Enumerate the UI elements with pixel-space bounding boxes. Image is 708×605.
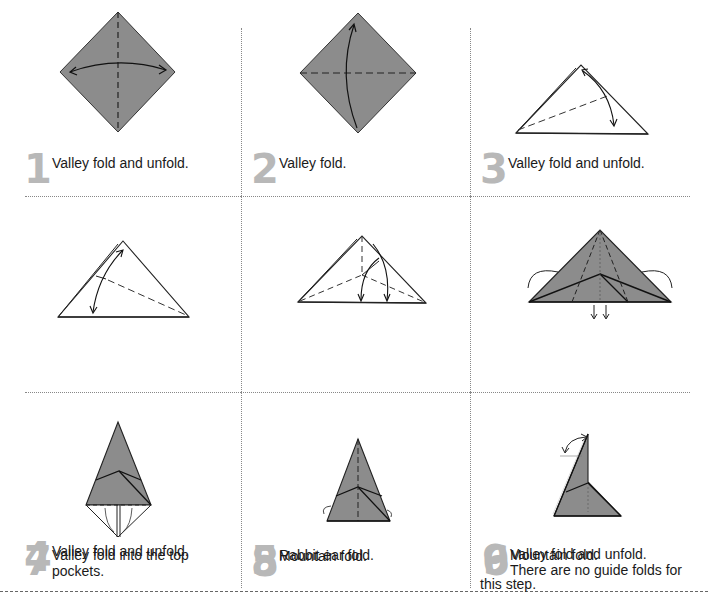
- step-5-diagram: [241, 196, 470, 392]
- step-4: 4 Valley fold and unfold.: [0, 196, 241, 392]
- step-6: 6 Mountain fold.: [470, 196, 708, 392]
- step-3-caption: 3 Valley fold and unfold.: [480, 152, 645, 186]
- step-2-caption: 2 Valley fold.: [251, 152, 346, 186]
- step-number: 2: [251, 152, 277, 186]
- step-3: 3 Valley fold and unfold.: [470, 0, 708, 196]
- step-instruction-line-3: this step.: [480, 576, 702, 592]
- step-instruction: Mountain fold.: [279, 545, 367, 564]
- step-7-caption: 7 Valley fold into the top pockets.: [24, 544, 192, 579]
- step-instruction: Valley fold and unfold.: [52, 152, 189, 171]
- step-7: 7 Valley fold into the top pockets.: [0, 392, 241, 591]
- step-9: 9 Valley fold and unfold. There are no g…: [470, 392, 708, 591]
- step-number: 3: [480, 152, 506, 186]
- step-number: 7: [24, 544, 50, 578]
- step-number: 9: [482, 543, 508, 577]
- step-6-diagram: [470, 196, 708, 392]
- step-instruction-line-1: Valley fold and unfold.: [510, 546, 682, 562]
- step-4-diagram: [0, 196, 241, 392]
- step-5: 5 Rabbit ear fold.: [241, 196, 470, 392]
- step-instruction: Valley fold.: [279, 152, 346, 171]
- step-instruction: Valley fold into the top pockets.: [52, 544, 192, 579]
- step-instruction: Valley fold and unfold.: [508, 152, 645, 171]
- step-8: 8 Mountain fold.: [241, 392, 470, 591]
- step-number: 8: [251, 545, 277, 579]
- step-1-caption: 1 Valley fold and unfold.: [24, 152, 189, 186]
- step-9-caption: 9 Valley fold and unfold. There are no g…: [482, 543, 702, 592]
- step-number: 1: [24, 152, 50, 186]
- step-1: 1 Valley fold and unfold.: [0, 0, 241, 196]
- step-2: 2 Valley fold.: [241, 0, 470, 196]
- step-8-caption: 8 Mountain fold.: [251, 545, 367, 579]
